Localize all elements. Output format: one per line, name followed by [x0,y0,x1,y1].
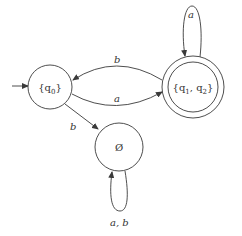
state-empty-label: Ø [115,142,123,153]
edge-label-b-top: b [114,54,120,65]
edge-label-b-down: b [70,121,76,132]
state-q1q2: {q1, q2} [162,56,224,118]
edge-label-a-middle: a [114,93,120,104]
dfa-diagram: b a b a a, b {q0} {q1, q2} Ø [0,0,242,236]
state-empty: Ø [95,123,143,171]
loop-label-ab: a, b [110,217,129,228]
self-loop-empty [111,171,128,211]
edge-q1q2-to-q0 [73,66,162,80]
loop-label-a: a [188,9,194,20]
state-q0: {q0} [28,65,72,109]
